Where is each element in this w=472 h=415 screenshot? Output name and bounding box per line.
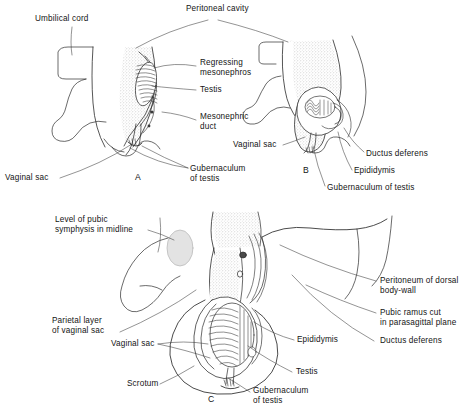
label-regressing-mesonephros: Regressing mesonephros [200, 58, 251, 79]
panel-letter-a: A [135, 172, 141, 182]
label-gubernaculum-of-testis-c: Gubernaculum of testis [253, 386, 309, 407]
label-umbilical-cord: Umbilical cord [35, 14, 89, 24]
label-level-of-pubic-symphysis: Level of pubic symphysis in midline [55, 215, 133, 236]
label-testis-c: Testis [296, 367, 318, 377]
label-vaginal-sac-a: Vaginal sac [233, 140, 276, 150]
panel-letter-c: C [208, 394, 214, 404]
label-scrotum: Scrotum [127, 379, 159, 389]
label-pubic-ramus-cut: Pubic ramus cut in parasagittal plane [380, 308, 456, 329]
label-epididymis-c: Epididymis [297, 335, 338, 345]
label-testis-a: Testis [200, 85, 222, 95]
label-peritoneum-of-dorsal-body-wall: Peritoneum of dorsal body-wall [380, 276, 459, 297]
label-gubernaculum-of-testis-a: Gubernaculum of testis [190, 164, 246, 185]
label-epididymis-b: Epididymis [354, 166, 395, 176]
label-parietal-layer-of-vaginal-sac: Parietal layer of vaginal sac [52, 316, 104, 337]
panel-letter-b: B [303, 165, 309, 175]
anatomy-figure: Umbilical cord Peritoneal cavity Regress… [0, 0, 472, 415]
label-vaginal-sac-left: Vaginal sac [5, 173, 48, 183]
label-vaginal-sac-c: Vaginal sac [111, 339, 154, 349]
panel-b-art [243, 36, 366, 153]
panel-c-art [120, 212, 392, 394]
label-ductus-deferens-b: Ductus deferens [366, 149, 428, 159]
label-ductus-deferens-c: Ductus deferens [380, 336, 442, 346]
label-mesonephric-duct: Mesonephric duct [200, 112, 249, 133]
label-gubernaculum-of-testis-b: Gubernaculum of testis [327, 183, 415, 193]
label-peritoneal-cavity: Peritoneal cavity [186, 4, 249, 14]
panel-a-art [52, 47, 160, 156]
